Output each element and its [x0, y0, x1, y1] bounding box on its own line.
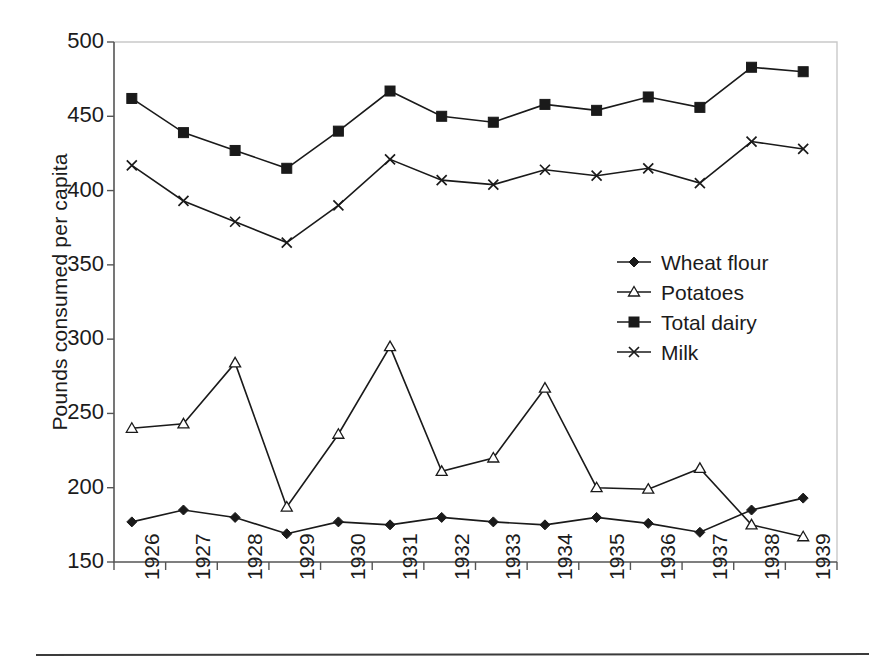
legend-item-label: Total dairy [661, 312, 757, 333]
chart-legend: Wheat flourPotatoesTotal dairyMilk [0, 0, 877, 668]
chart-figure: Pounds consumed per capita 1502002503003… [0, 0, 877, 668]
legend-item-label: Potatoes [661, 282, 744, 303]
legend-item-label: Milk [661, 342, 698, 363]
legend-item-label: Wheat flour [661, 252, 768, 273]
